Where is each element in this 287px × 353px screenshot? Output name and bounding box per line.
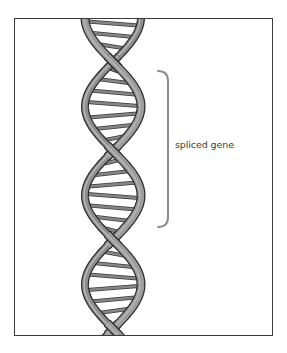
helix-strands: [84, 10, 141, 345]
spliced-gene-label: spliced gene: [175, 139, 234, 150]
bracket-icon: [158, 71, 168, 227]
dna-helix-icon: [84, 10, 141, 345]
dna-diagram: [0, 0, 287, 353]
